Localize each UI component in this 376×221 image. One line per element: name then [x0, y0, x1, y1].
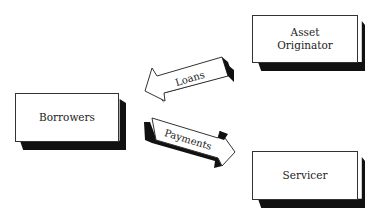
arrows-layer: Loans Payments — [0, 0, 376, 221]
payments-arrow: Payments — [144, 118, 235, 168]
loans-arrow: Loans — [145, 57, 234, 103]
